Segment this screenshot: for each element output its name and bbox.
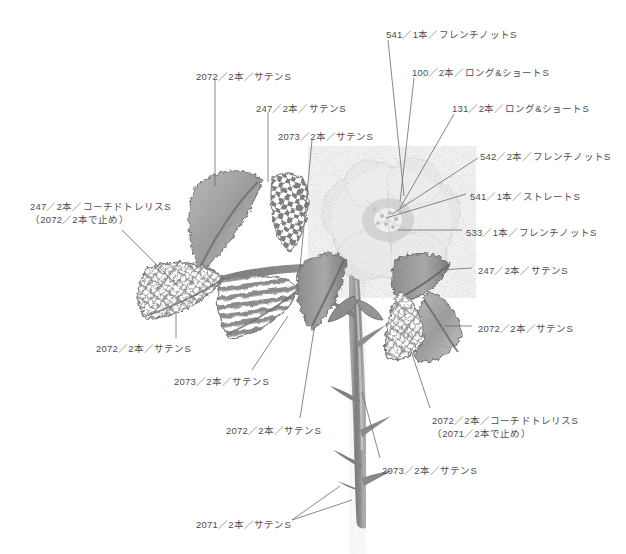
label-541-straight: 541／1本／ストレートS — [470, 190, 580, 203]
leaf-upper-left-satin — [189, 171, 262, 272]
leader-100-long-short — [400, 78, 414, 202]
label-text: 2073／2本／サテンS — [382, 465, 477, 476]
label-2072-satin-right: 2072／2本／サテンS — [478, 322, 573, 335]
leader-247-satin-right — [440, 268, 472, 270]
branch-stem-right — [356, 271, 424, 278]
label-2073-satin-upper: 2073／2本／サテンS — [278, 130, 373, 143]
flower-bloom — [322, 158, 460, 280]
label-2072-satin-lower-center: 2072／2本／サテンS — [226, 424, 321, 437]
label-541-french-knot: 541／1本／フレンチノットS — [386, 28, 516, 41]
label-247-satin-upper: 247／2本／サテンS — [256, 102, 346, 115]
label-text: 2072／2本／サテンS — [96, 343, 191, 354]
leader-2071-thorn-b — [292, 500, 352, 520]
leader-542-french-knot — [392, 158, 478, 214]
label-100-long-and-short: 100／2本／ロング&ショートS — [412, 66, 549, 79]
leader-2073-satin-upper — [300, 140, 312, 268]
leaf-checkered-upper — [271, 173, 308, 252]
leaf-trellis-left — [138, 263, 224, 319]
leaf-trellis-right — [386, 292, 424, 360]
leader-2073-satin-stem — [362, 392, 380, 458]
label-542-french-knot: 542／2本／フレンチノットS — [480, 150, 610, 163]
label-2073-satin-stem: 2073／2本／サテンS — [382, 464, 477, 477]
leader-131-long-short — [400, 114, 454, 208]
leaf-right-upper-satin — [392, 254, 450, 302]
leaf-striped-center — [217, 275, 300, 338]
label-text: 131／2本／ロング&ショートS — [452, 103, 589, 114]
label-2072-satin-lower-left: 2072／2本／サテンS — [96, 342, 191, 355]
leader-541-straight — [386, 194, 466, 218]
label-text: 247／2本／サテンS — [256, 103, 346, 114]
label-text: 542／2本／フレンチノットS — [480, 151, 610, 162]
label-533-french-knot: 533／1本／フレンチノットS — [466, 226, 596, 239]
label-247-couched-trellis: 247／2本／コーチドトレリスS （2072／2本で止め） — [30, 200, 171, 226]
stem-main — [352, 268, 363, 522]
label-text: 2073／2本／サテンS — [174, 376, 269, 387]
embroidery-stitch-diagram: 541／1本／フレンチノットS 100／2本／ロング&ショートS 131／2本／… — [0, 0, 626, 554]
label-text: 100／2本／ロング&ショートS — [412, 67, 549, 78]
leader-2073-satin-lower-left — [252, 316, 288, 370]
leader-541-french-knot — [388, 40, 404, 196]
flower-centre-knots — [372, 208, 401, 229]
label-text: 533／1本／フレンチノットS — [466, 227, 596, 238]
label-text: 2072／2本／サテンS — [196, 71, 291, 82]
label-text: 247／2本／サテンS — [478, 265, 568, 276]
rose-embroidery-artwork — [0, 0, 626, 554]
label-text: 541／1本／フレンチノットS — [386, 29, 516, 40]
label-text-line2: （2072／2本で止め） — [30, 213, 171, 226]
sepal-leaves — [328, 296, 383, 322]
label-text: 247／2本／コーチドトレリスS — [30, 201, 171, 212]
leaf-right-lower-satin — [415, 292, 462, 362]
label-2072-satin-upper-left: 2072／2本／サテンS — [196, 70, 291, 83]
label-text: 2072／2本／サテンS — [478, 323, 573, 334]
label-text-line2: （2071／2本で止め） — [432, 427, 578, 440]
label-2072-couched-trellis: 2072／2本／コーチドトレリスS （2071／2本で止め） — [432, 414, 578, 440]
leader-lines — [0, 0, 626, 554]
label-247-satin-right: 247／2本／サテンS — [478, 264, 568, 277]
label-text: 541／1本／ストレートS — [470, 191, 580, 202]
label-text: 2073／2本／サテンS — [278, 131, 373, 142]
label-131-long-and-short: 131／2本／ロング&ショートS — [452, 102, 589, 115]
branch-stem-left — [176, 268, 352, 296]
label-text: 2072／2本／サテンS — [226, 425, 321, 436]
leader-2072-satin-lower-center — [300, 330, 314, 418]
leader-247-couched-trellis — [122, 230, 176, 284]
leader-2072-couched-trellis — [410, 348, 430, 408]
leader-2071-thorn-a — [292, 486, 340, 520]
leaf-center-satin — [297, 254, 346, 330]
label-2071-satin-thorns: 2071／2本／サテンS — [196, 518, 291, 531]
label-2073-satin-lower-left: 2073／2本／サテンS — [174, 375, 269, 388]
label-text: 2072／2本／コーチドトレリスS — [432, 415, 578, 426]
label-text: 2071／2本／サテンS — [196, 519, 291, 530]
